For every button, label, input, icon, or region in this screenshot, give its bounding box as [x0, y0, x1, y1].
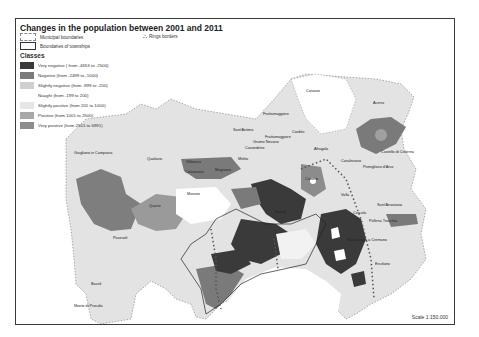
class-slightly-negative: Slightly negative (from -999 to -200) — [20, 82, 108, 89]
classes-heading: Classes — [20, 52, 45, 59]
class-label: Very negative ( from -4653 to -2500) — [38, 63, 109, 68]
place-label: Mugnano — [215, 168, 231, 172]
place-label: Volla — [341, 193, 349, 197]
map-title: Changes in the population between 2001 a… — [20, 23, 223, 33]
place-label: Villaricca — [186, 160, 201, 164]
place-label: Pomigliano d'Arco — [363, 165, 393, 169]
legend-label: Municipal boundaries — [40, 35, 83, 40]
place-label: Calvizzano — [185, 170, 204, 174]
place-label: San Giorgio a Cremano — [347, 238, 387, 242]
class-slightly-positive: Slightly positive (from 201 to 1000) — [20, 102, 106, 109]
class-naught: Naught (from -199 to 200) — [20, 92, 89, 99]
color-swatch — [20, 82, 34, 89]
legend-label: Boundaries of townships — [40, 44, 90, 49]
place-label: Afragola — [314, 147, 328, 151]
class-label: Slightly positive (from 201 to 1000) — [38, 103, 106, 108]
color-swatch — [20, 112, 34, 119]
map-frame: Changes in the population between 2001 a… — [15, 18, 455, 325]
place-label: Cardito — [292, 130, 304, 134]
place-label: Quarto — [149, 204, 161, 208]
place-label: Cercola — [353, 211, 366, 215]
place-label: Casandrino — [245, 146, 264, 150]
class-positive: Positive (from 1001 to 2500) — [20, 112, 93, 119]
place-label: Frattamaggiore — [263, 112, 289, 116]
legend-township-boundaries: Boundaries of townships — [20, 42, 90, 50]
place-label: Casalnuovo — [341, 159, 361, 163]
place-label: Casoria — [305, 177, 318, 181]
car-icon: ⛬ — [143, 33, 147, 40]
color-swatch — [20, 102, 34, 109]
class-label: Very positive (from 2501 to 6891) — [38, 123, 103, 128]
place-label: Sant'Anastasia — [377, 203, 402, 207]
place-label: Pozzuoli — [113, 236, 127, 240]
place-label: Bacoli — [91, 282, 101, 286]
color-swatch — [20, 122, 34, 129]
place-label: Acerra — [373, 101, 384, 105]
place-label: Monte di Procida — [74, 304, 103, 308]
legend-municipal-boundaries: Municipal boundaries — [20, 33, 83, 41]
class-label: Slightly negative (from -999 to -200) — [38, 83, 108, 88]
color-swatch — [20, 72, 34, 79]
place-label: Qualiano — [147, 157, 162, 161]
class-very-negative: Very negative ( from -4653 to -2500) — [20, 62, 109, 69]
class-negative: Negative (from -2499 to -1000) — [20, 72, 98, 79]
place-label: Marano — [187, 192, 200, 196]
place-label: Pollena Trocchia — [369, 219, 397, 223]
place-label: Frattamaggiore — [265, 135, 291, 139]
color-swatch — [20, 92, 34, 99]
legend-ring-borders: ⛬ Rings borders — [143, 33, 178, 40]
dashed-line-swatch — [20, 33, 36, 41]
class-label: Positive (from 1001 to 2500) — [38, 113, 93, 118]
place-label: Melito — [238, 157, 248, 161]
class-label: Negative (from -2499 to -1000) — [38, 73, 98, 78]
place-label: Sant'Antimo — [233, 128, 253, 132]
place-label: Grumo Nevano — [253, 140, 279, 144]
scale-label: Scale 1:150.000 — [412, 314, 448, 320]
place-label: Caivano — [306, 89, 320, 93]
class-very-positive: Very positive (from 2501 to 6891) — [20, 122, 103, 129]
place-label: Napoli — [275, 210, 286, 214]
class-label: Naught (from -199 to 200) — [38, 93, 89, 98]
legend-label: Rings borders — [149, 34, 178, 39]
solid-line-swatch — [20, 42, 36, 50]
color-swatch — [20, 62, 34, 69]
place-label: Giugliano in Campania — [74, 151, 112, 155]
place-label: Castello di Cisterna — [381, 150, 414, 154]
place-label: Ercolano — [375, 262, 390, 266]
